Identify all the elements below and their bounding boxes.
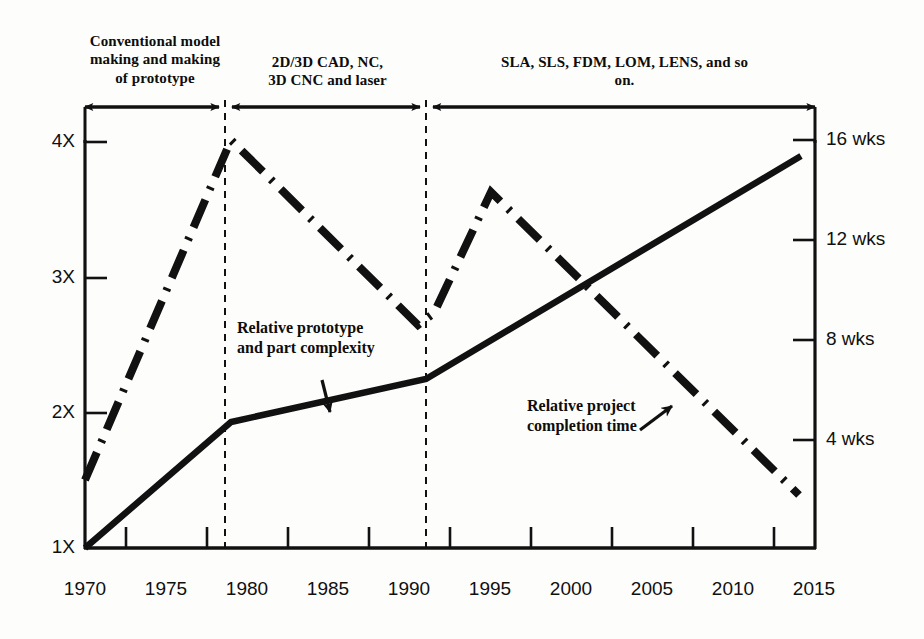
left-tick-label-1x: 1X	[20, 536, 75, 558]
series-label-complexity: Relative prototype and part complexity	[237, 318, 452, 358]
x-tick-label-2005: 2005	[612, 578, 692, 600]
chart-canvas	[0, 0, 924, 639]
series-label-project-time-line2: completion time	[527, 416, 727, 436]
right-tick-label-8wks: 8 wks	[826, 328, 875, 350]
right-tick-label-16wks: 16 wks	[826, 128, 885, 150]
right-tick-label-12wks: 12 wks	[826, 228, 885, 250]
left-tick-label-4x: 4X	[20, 130, 75, 152]
right-axis-ticks	[793, 140, 815, 440]
x-tick-label-1990: 1990	[369, 578, 449, 600]
x-tick-label-2010: 2010	[693, 578, 773, 600]
left-tick-label-2x: 2X	[20, 401, 75, 423]
phase-band-3-line1: SLA, SLS, FDM, LOM, LENS, and so	[437, 53, 812, 71]
phase-span-arrow-3	[433, 107, 815, 143]
phase-band-1-line2: making and making	[55, 50, 255, 68]
phase-span-arrow-1	[85, 107, 219, 143]
phase-band-label-1: Conventional model making and making of …	[55, 32, 255, 87]
phase-band-1-line3: of prototype	[55, 69, 255, 87]
annotation-arrow-complexity	[322, 380, 330, 412]
x-tick-label-1995: 1995	[450, 578, 530, 600]
phase-band-label-3: SLA, SLS, FDM, LOM, LENS, and so on.	[437, 53, 812, 90]
x-tick-label-2015: 2015	[774, 578, 854, 600]
phase-band-2-line2: 3D CNC and laser	[235, 71, 420, 89]
left-axis-ticks	[85, 142, 107, 413]
series-label-complexity-line2: and part complexity	[237, 338, 452, 358]
left-tick-label-3x: 3X	[20, 266, 75, 288]
x-tick-label-1975: 1975	[126, 578, 206, 600]
series-label-project-time-line1: Relative project	[527, 396, 727, 416]
chart-figure: Conventional model making and making of …	[0, 0, 924, 639]
phase-band-1-line1: Conventional model	[55, 32, 255, 50]
phase-band-label-2: 2D/3D CAD, NC, 3D CNC and laser	[235, 53, 420, 90]
x-axis-ticks	[126, 527, 774, 548]
phase-band-2-line1: 2D/3D CAD, NC,	[235, 53, 420, 71]
series-label-project-time: Relative project completion time	[527, 396, 727, 436]
x-tick-label-1980: 1980	[207, 578, 287, 600]
x-tick-label-1970: 1970	[45, 578, 125, 600]
phase-band-3-line2: on.	[437, 71, 812, 89]
series-label-complexity-line1: Relative prototype	[237, 318, 452, 338]
right-tick-label-4wks: 4 wks	[826, 428, 875, 450]
x-tick-label-1985: 1985	[288, 578, 368, 600]
x-tick-label-2000: 2000	[531, 578, 611, 600]
